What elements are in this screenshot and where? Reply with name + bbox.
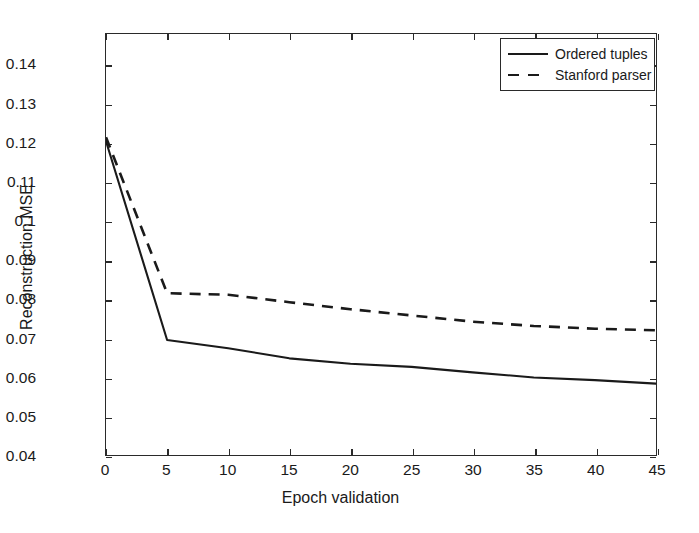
y-tick-label: 0.08 bbox=[0, 292, 36, 308]
y-tick-label: 0.14 bbox=[0, 57, 36, 73]
x-tick-label: 0 bbox=[83, 462, 127, 478]
y-tick-label: 0.11 bbox=[0, 174, 36, 190]
legend-label-0: Ordered tuples bbox=[555, 47, 648, 61]
x-tick-label: 25 bbox=[390, 462, 434, 478]
line-series-stanford-parser bbox=[106, 137, 656, 330]
legend-box: Ordered tuples Stanford parser bbox=[500, 38, 655, 91]
x-axis-title: Epoch validation bbox=[0, 489, 699, 507]
x-tick-label: 5 bbox=[144, 462, 188, 478]
x-tick-label: 30 bbox=[451, 462, 495, 478]
x-tick-mark bbox=[658, 449, 659, 455]
x-tick-label: 35 bbox=[512, 462, 556, 478]
x-tick-label: 10 bbox=[206, 462, 250, 478]
x-tick-label: 40 bbox=[574, 462, 618, 478]
legend-solid-line-icon bbox=[507, 48, 549, 60]
y-tick-label: 0.1 bbox=[0, 213, 36, 229]
legend-item-stanford-parser: Stanford parser bbox=[507, 64, 648, 85]
figure-chart: Reconstruction MSE 0.040.050.060.070.080… bbox=[0, 0, 699, 533]
legend-label-1: Stanford parser bbox=[555, 68, 652, 82]
y-tick-mark bbox=[106, 457, 112, 458]
legend-dashed-line-icon bbox=[507, 69, 549, 81]
legend-item-ordered-tuples: Ordered tuples bbox=[507, 43, 648, 64]
x-tick-label: 45 bbox=[635, 462, 679, 478]
plot-area bbox=[105, 33, 657, 456]
y-tick-label: 0.12 bbox=[0, 135, 36, 151]
y-tick-label: 0.09 bbox=[0, 252, 36, 268]
y-tick-label: 0.13 bbox=[0, 96, 36, 112]
x-tick-label: 15 bbox=[267, 462, 311, 478]
y-tick-mark bbox=[650, 457, 656, 458]
y-tick-label: 0.05 bbox=[0, 409, 36, 425]
x-tick-label: 20 bbox=[328, 462, 372, 478]
series-canvas bbox=[106, 34, 656, 455]
x-axis-title-text: Epoch validation bbox=[282, 489, 399, 507]
x-tick-mark bbox=[658, 34, 659, 40]
line-series-ordered-tuples bbox=[106, 141, 656, 383]
y-tick-label: 0.04 bbox=[0, 448, 36, 464]
y-tick-label: 0.06 bbox=[0, 370, 36, 386]
y-tick-label: 0.07 bbox=[0, 331, 36, 347]
